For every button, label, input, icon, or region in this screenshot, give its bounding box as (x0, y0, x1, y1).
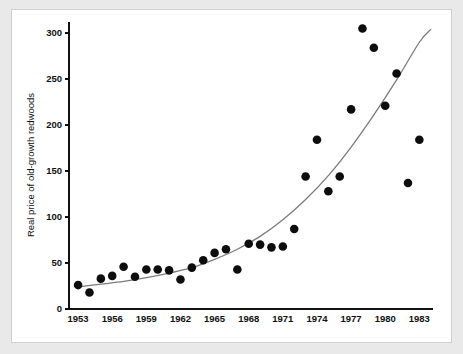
y-tick-label-300: 300 (46, 27, 62, 38)
y-tick-label-150: 150 (46, 165, 62, 176)
data-point (267, 243, 276, 252)
trend-line (78, 29, 431, 287)
data-point (290, 225, 299, 234)
data-point (404, 179, 413, 188)
data-point (222, 245, 231, 254)
y-tick-label-250: 250 (46, 73, 62, 84)
data-point (256, 240, 265, 249)
data-point (131, 273, 140, 282)
data-point (165, 266, 174, 275)
data-point (347, 105, 356, 114)
data-point (301, 172, 310, 181)
figure-card: 050100150200250300 195319561959196219651… (11, 9, 452, 343)
x-tick-label-1971: 1971 (272, 313, 294, 324)
data-point (313, 135, 322, 144)
data-point (415, 135, 424, 144)
data-point (142, 265, 151, 274)
data-point (335, 172, 344, 181)
data-point (74, 281, 83, 290)
x-tick-label-1980: 1980 (375, 313, 396, 324)
y-axis-tick-labels: 050100150200250300 (46, 27, 62, 314)
x-axis-group: 1953195619591962196519681971197419771980… (68, 309, 433, 324)
data-point (108, 272, 117, 281)
x-tick-label-1983: 1983 (409, 313, 430, 324)
data-point (119, 262, 128, 271)
y-tick-label-50: 50 (51, 257, 62, 268)
data-point (324, 187, 333, 196)
data-point (392, 69, 401, 78)
x-tick-label-1977: 1977 (341, 313, 362, 324)
data-point (370, 43, 379, 52)
y-tick-label-200: 200 (46, 119, 62, 130)
x-axis-tick-labels: 1953195619591962196519681971197419771980… (68, 313, 430, 324)
screenshot-root: 050100150200250300 195319561959196219651… (0, 0, 463, 354)
x-tick-label-1965: 1965 (204, 313, 226, 324)
y-tick-label-100: 100 (46, 211, 62, 222)
x-tick-label-1968: 1968 (238, 313, 259, 324)
x-tick-label-1974: 1974 (306, 313, 328, 324)
x-tick-label-1953: 1953 (68, 313, 89, 324)
y-tick-label-0: 0 (57, 303, 62, 314)
data-point (85, 288, 94, 297)
data-point (279, 242, 288, 251)
data-point (381, 101, 390, 110)
data-point (244, 239, 253, 248)
data-points-group (74, 24, 424, 297)
y-axis-title: Real price of old-growth redwoods (25, 93, 36, 237)
x-tick-label-1956: 1956 (102, 313, 123, 324)
x-tick-label-1959: 1959 (136, 313, 157, 324)
data-point (358, 24, 367, 33)
data-point (188, 263, 197, 272)
data-point (210, 249, 219, 258)
data-point (199, 256, 208, 265)
x-tick-label-1962: 1962 (170, 313, 191, 324)
data-point (153, 265, 162, 274)
y-axis-group: 050100150200250300 (46, 22, 69, 314)
data-point (176, 275, 185, 284)
scatter-plot: 050100150200250300 195319561959196219651… (12, 10, 451, 342)
data-point (233, 265, 242, 274)
data-point (97, 274, 106, 283)
